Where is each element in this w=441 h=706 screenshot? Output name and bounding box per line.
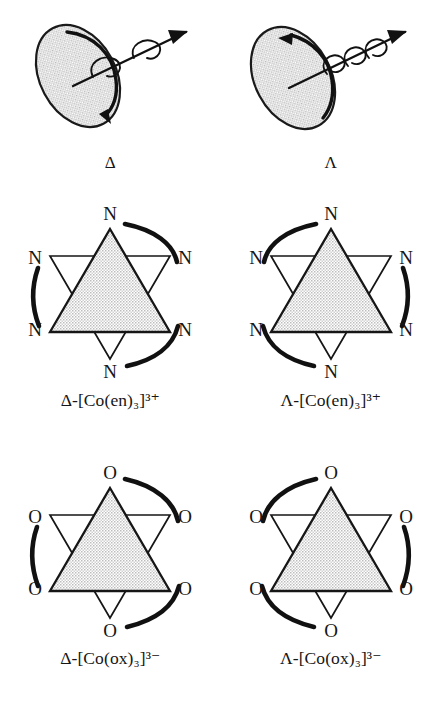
donor-atom-label: O (103, 462, 117, 483)
donor-atom-label: N (399, 247, 413, 268)
lambda-co-en-caption: Λ-[Co(en)₃]³⁺ (280, 392, 381, 410)
lambda-helix-caption: Λ (324, 154, 337, 171)
tris-ethylenediamine-row: N N N N N N Δ-[Co(en)₃]³⁺ (0, 196, 441, 431)
donor-atom-label: O (249, 578, 263, 599)
right-handed-helix-disc-icon (10, 14, 210, 148)
donor-atom-label: O (28, 578, 42, 599)
donor-atom-label: N (28, 319, 42, 340)
donor-atom-label: O (178, 578, 192, 599)
figure-sheet: Δ (0, 0, 441, 706)
donor-atom-label: N (249, 247, 263, 268)
donor-atom-label: O (103, 620, 117, 640)
hexagram-lambda-icon: O O O O O O (236, 455, 426, 644)
donor-atom-label: O (324, 462, 338, 483)
helix-analogy-row: Δ (0, 14, 441, 179)
delta-co-en-cell: N N N N N N Δ-[Co(en)₃]³⁺ (0, 196, 221, 431)
donor-atom-label: N (324, 361, 338, 381)
hexagram-lambda-icon: N N N N N N (236, 196, 426, 385)
donor-atom-label: N (178, 319, 192, 340)
lambda-co-ox-caption: Λ-[Co(ox)₃]³⁻ (280, 650, 382, 668)
hexagram-delta-icon: O O O O O O (15, 455, 205, 644)
donor-atom-label: N (178, 247, 192, 268)
delta-helix-cell: Δ (0, 14, 221, 179)
donor-atom-label: N (28, 247, 42, 268)
delta-helix-caption: Δ (105, 154, 116, 171)
donor-atom-label: N (103, 203, 117, 224)
donor-atom-label: O (249, 506, 263, 527)
left-handed-helix-disc-icon (231, 14, 431, 148)
lambda-helix-cell: Λ (221, 14, 441, 179)
lambda-co-ox-cell: O O O O O O Λ-[Co(ox)₃]³⁻ (221, 455, 441, 700)
donor-atom-label: N (399, 319, 413, 340)
tris-oxalato-row: O O O O O O Δ-[Co(ox)₃]³⁻ (0, 455, 441, 700)
donor-atom-label: O (324, 620, 338, 640)
donor-atom-label: N (103, 361, 117, 381)
hexagram-delta-icon: N N N N N N (15, 196, 205, 385)
lambda-co-en-cell: N N N N N N Λ-[Co(en)₃]³⁺ (221, 196, 441, 431)
delta-co-en-caption: Δ-[Co(en)₃]³⁺ (61, 392, 160, 410)
donor-atom-label: O (28, 506, 42, 527)
delta-co-ox-caption: Δ-[Co(ox)₃]³⁻ (60, 650, 160, 668)
donor-atom-label: N (249, 319, 263, 340)
donor-atom-label: O (399, 578, 413, 599)
donor-atom-label: N (324, 203, 338, 224)
delta-co-ox-cell: O O O O O O Δ-[Co(ox)₃]³⁻ (0, 455, 221, 700)
donor-atom-label: O (399, 506, 413, 527)
donor-atom-label: O (178, 506, 192, 527)
